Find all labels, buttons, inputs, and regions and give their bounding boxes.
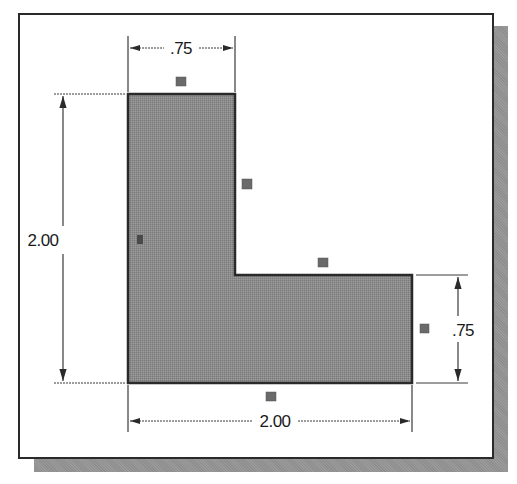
top-width-value: .75	[170, 39, 192, 58]
left-height-value: 2.00	[27, 231, 58, 250]
inner-vertical-edge-marker-icon[interactable]	[242, 179, 252, 189]
inner-horizontal-edge-marker-icon[interactable]	[318, 258, 328, 267]
bottom-width-value: 2.00	[259, 412, 290, 431]
bottom-edge-marker-icon[interactable]	[266, 392, 276, 401]
drawing-canvas: .75 2.00 .75 2.00	[0, 0, 517, 484]
left-edge-marker-icon[interactable]	[137, 235, 143, 244]
right-height-value: .75	[452, 321, 474, 340]
top-edge-marker-icon[interactable]	[176, 77, 186, 86]
sketch-svg: .75 2.00 .75 2.00	[0, 0, 517, 484]
l-shape-profile[interactable]	[128, 94, 412, 383]
left-height-dimension[interactable]: 2.00	[27, 94, 126, 383]
right-edge-marker-icon[interactable]	[420, 324, 429, 333]
